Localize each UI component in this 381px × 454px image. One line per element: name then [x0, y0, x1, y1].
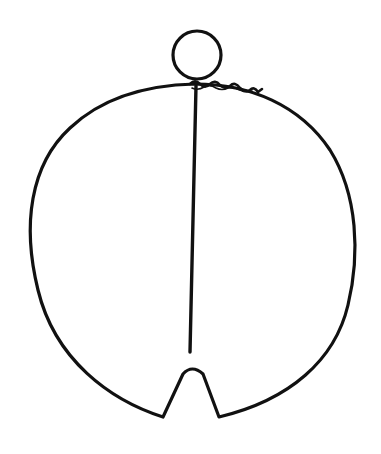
background — [0, 0, 381, 454]
wire-frame-drawing — [0, 0, 381, 454]
